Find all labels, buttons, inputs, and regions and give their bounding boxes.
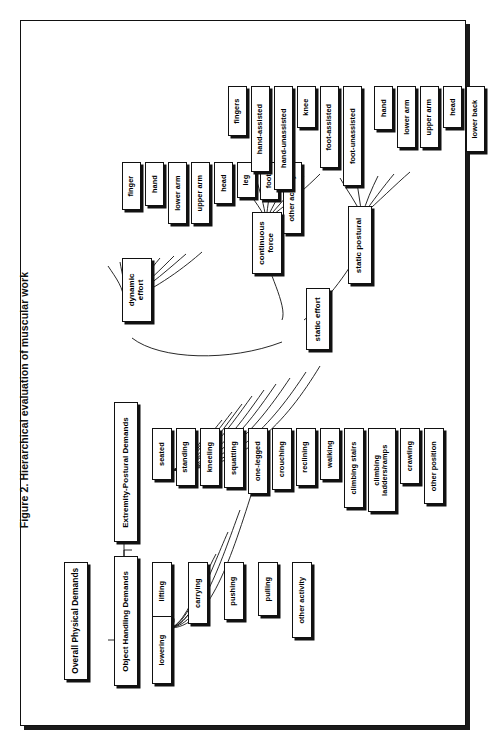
node-static-effort[interactable]: static effort bbox=[306, 288, 330, 350]
leaf-other-position[interactable]: other position bbox=[424, 428, 444, 504]
node-label: crawling bbox=[406, 441, 414, 471]
node-label: static postural bbox=[356, 217, 365, 272]
node-label: lowering bbox=[158, 635, 166, 666]
leaf-walking[interactable]: walking bbox=[320, 428, 340, 480]
node-label: kneeling bbox=[206, 442, 214, 472]
node-label: foot bbox=[265, 174, 273, 188]
leaf-fingers[interactable]: fingers bbox=[228, 86, 247, 136]
node-label: fingers bbox=[233, 99, 241, 124]
node-label: upper arm bbox=[425, 99, 433, 136]
node-label: hand bbox=[150, 175, 158, 193]
leaf-lifting[interactable]: lifting bbox=[152, 562, 172, 620]
node-continuous-force[interactable]: continuous force bbox=[252, 212, 282, 274]
leaf-one-legged[interactable]: one-legged bbox=[248, 428, 268, 494]
leaf-pulling[interactable]: pulling bbox=[258, 562, 278, 616]
leaf-carrying[interactable]: carrying bbox=[188, 562, 208, 624]
node-object-handling-demands[interactable]: Object Handling Demands bbox=[114, 556, 138, 686]
leaf-seated[interactable]: seated bbox=[152, 428, 172, 480]
leaf-reclining[interactable]: reclining bbox=[296, 428, 316, 486]
leaf-pushing[interactable]: pushing bbox=[224, 562, 244, 620]
node-label: hand bbox=[379, 99, 387, 117]
node-label: other position bbox=[430, 441, 438, 491]
leaf-foot-unassisted[interactable]: foot-unassisted bbox=[343, 86, 362, 186]
node-label: finger bbox=[127, 176, 135, 197]
node-label: upper arm bbox=[196, 175, 204, 212]
leaf-other-activity-handling[interactable]: other activity bbox=[292, 562, 312, 638]
node-label: knee bbox=[302, 98, 310, 115]
leaf-kneeling[interactable]: kneeling bbox=[200, 428, 220, 486]
leaf-squatting[interactable]: squatting bbox=[224, 428, 244, 488]
leaf-standing[interactable]: standing bbox=[176, 428, 196, 486]
node-extremity-postural-demands[interactable]: Extremity-Postural Demands bbox=[114, 402, 138, 542]
node-label: other activity bbox=[298, 577, 306, 624]
leaf-foot-assisted[interactable]: foot-assisted bbox=[320, 86, 339, 168]
leaf-hand-postural[interactable]: hand bbox=[374, 86, 393, 130]
node-label: lower arm bbox=[173, 175, 181, 210]
node-label: Extremity-Postural Demands bbox=[122, 417, 131, 528]
leaf-climbing-ladders-ramps[interactable]: climbing ladders/ramps bbox=[368, 428, 396, 512]
leaf-head-dynamic[interactable]: head bbox=[214, 162, 233, 204]
node-label: foot-assisted bbox=[325, 104, 333, 151]
leaf-hand-dynamic[interactable]: hand bbox=[145, 162, 164, 206]
leaf-crouching[interactable]: crouching bbox=[272, 428, 292, 490]
leaf-lower-arm-postural[interactable]: lower arm bbox=[397, 86, 416, 148]
leaf-finger[interactable]: finger bbox=[122, 162, 141, 210]
node-label: lower back bbox=[471, 100, 479, 139]
node-label: walking bbox=[326, 440, 334, 467]
node-label: one-legged bbox=[254, 441, 262, 481]
leaf-climbing-stairs[interactable]: climbing stairs bbox=[344, 428, 364, 508]
node-static-postural[interactable]: static postural bbox=[348, 206, 372, 284]
leaf-upper-arm-postural[interactable]: upper arm bbox=[420, 86, 439, 148]
node-label: climbing stairs bbox=[350, 442, 358, 495]
node-label: foot-unassisted bbox=[348, 108, 356, 164]
figure-page: Figure 2. Hierarchical evaluation of mus… bbox=[0, 0, 491, 750]
node-label: pulling bbox=[264, 577, 272, 602]
node-label: continuous force bbox=[258, 221, 276, 265]
node-label: dynamic effort bbox=[128, 274, 146, 307]
node-label: Object Handling Demands bbox=[122, 571, 131, 672]
node-label: reclining bbox=[302, 441, 310, 472]
node-label: hand-assisted bbox=[256, 104, 264, 154]
leaf-lower-arm-dynamic[interactable]: lower arm bbox=[168, 162, 187, 224]
leaf-crawling[interactable]: crawling bbox=[400, 428, 420, 484]
node-label: leg bbox=[242, 175, 250, 186]
node-label: hand-unassisted bbox=[279, 108, 287, 167]
node-label: squatting bbox=[230, 441, 238, 475]
leaf-hand-assisted[interactable]: hand-assisted bbox=[251, 86, 270, 172]
node-label: head bbox=[219, 174, 227, 191]
node-label: climbing ladders/ramps bbox=[374, 444, 391, 495]
leaf-head-postural[interactable]: head bbox=[443, 86, 462, 128]
node-label: carrying bbox=[194, 578, 202, 608]
leaf-hand-unassisted[interactable]: hand-unassisted bbox=[274, 86, 293, 190]
node-overall-physical-demands[interactable]: Overall Physical Demands bbox=[64, 562, 88, 680]
node-label: lifting bbox=[158, 581, 166, 601]
node-label: crouching bbox=[278, 441, 286, 477]
leaf-upper-arm-dynamic[interactable]: upper arm bbox=[191, 162, 210, 224]
leaf-knee[interactable]: knee bbox=[297, 86, 316, 128]
node-label: Overall Physical Demands bbox=[71, 568, 80, 674]
node-label: seated bbox=[158, 442, 166, 466]
node-dynamic-effort[interactable]: dynamic effort bbox=[122, 258, 152, 322]
node-label: standing bbox=[182, 441, 190, 472]
node-label: static effort bbox=[314, 297, 323, 341]
leaf-lower-back[interactable]: lower back bbox=[466, 86, 485, 152]
node-label: pushing bbox=[230, 576, 238, 605]
node-label: lower arm bbox=[402, 99, 410, 134]
node-label: head bbox=[448, 98, 456, 115]
leaf-lowering[interactable]: lowering bbox=[152, 616, 172, 684]
